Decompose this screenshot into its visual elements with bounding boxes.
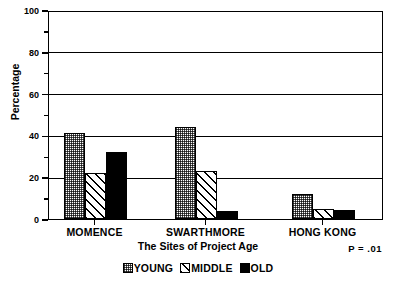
bar-chart-figure: 020406080100 Percentage The Sites of Pro…	[0, 0, 396, 286]
y-axis-tick-label: 20	[29, 173, 39, 183]
x-axis-category-label: HONG KONG	[289, 226, 357, 238]
x-axis-category-label: SWARTHMORE	[166, 226, 245, 238]
y-axis-tick-label: 0	[34, 215, 39, 225]
legend-label: MIDDLE	[191, 262, 232, 274]
legend-swatch-young-icon	[123, 263, 133, 273]
y-axis-title: Percentage	[9, 44, 21, 140]
bar-group	[175, 12, 279, 219]
x-axis-category-label: MOMENCE	[66, 226, 122, 238]
bar-middle-swarthmore	[196, 171, 217, 219]
y-axis-tick-label: 80	[29, 48, 39, 58]
bar-middle-hong-kong	[313, 209, 334, 219]
legend-label: YOUNG	[134, 262, 174, 274]
p-value-annotation: P = .01	[348, 243, 382, 254]
legend-swatch-old-icon	[240, 263, 250, 273]
bar-young-swarthmore	[175, 127, 196, 219]
legend: YOUNGMIDDLEOLD	[0, 262, 396, 274]
bar-group	[292, 12, 396, 219]
legend-label: OLD	[251, 262, 274, 274]
bar-old-swarthmore	[217, 211, 238, 219]
y-axis: 020406080100	[0, 0, 48, 231]
legend-item-middle[interactable]: MIDDLE	[180, 262, 232, 274]
bar-old-momence	[106, 152, 127, 219]
y-axis-tick-label: 60	[29, 90, 39, 100]
bar-middle-momence	[85, 173, 106, 219]
x-axis-tick	[322, 220, 324, 225]
bar-young-momence	[64, 133, 85, 219]
bar-old-hong-kong	[334, 210, 355, 219]
x-axis-tick	[94, 220, 96, 225]
x-axis-tick	[205, 220, 207, 225]
legend-item-young[interactable]: YOUNG	[123, 262, 174, 274]
x-axis-title: The Sites of Project Age	[0, 240, 396, 252]
y-axis-tick-label: 40	[29, 131, 39, 141]
legend-swatch-middle-icon	[180, 263, 190, 273]
plot-area	[48, 11, 383, 220]
y-axis-tick-label: 100	[24, 6, 39, 16]
legend-item-old[interactable]: OLD	[240, 262, 274, 274]
bar-young-hong-kong	[292, 194, 313, 219]
bar-group	[64, 12, 168, 219]
